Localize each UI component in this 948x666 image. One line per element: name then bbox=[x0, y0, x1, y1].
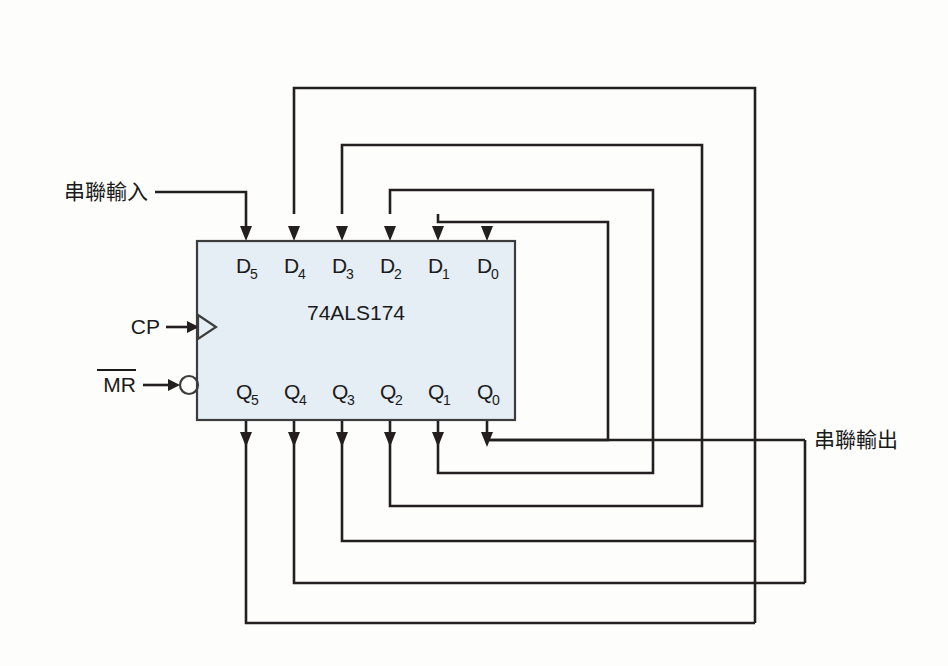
q-pin-label-0: Q bbox=[236, 380, 252, 403]
q-pin-sub-2: 3 bbox=[347, 392, 355, 408]
d-pin-label-3: D bbox=[380, 254, 395, 277]
d-pin-sub-3: 2 bbox=[394, 266, 402, 282]
circuit-diagram: 串聯輸入 串聯輸出 74ALS174 CP MR D 5 D bbox=[0, 0, 948, 666]
d-pin-sub-4: 1 bbox=[442, 266, 450, 282]
d-pin-label-0: D bbox=[236, 254, 251, 277]
feedback-wire-q4-outer bbox=[294, 420, 805, 583]
d-pin-sub-1: 4 bbox=[298, 266, 306, 282]
serial-input-wire bbox=[155, 192, 246, 226]
cp-pin-label: CP bbox=[131, 315, 160, 338]
d-pin-label-4: D bbox=[428, 254, 443, 277]
q-pin-sub-0: 5 bbox=[251, 392, 259, 408]
q-pin-sub-4: 1 bbox=[443, 392, 451, 408]
serial-input-label: 串聯輸入 bbox=[64, 180, 148, 204]
serial-output-label: 串聯輸出 bbox=[814, 428, 898, 452]
chip-name-label: 74ALS174 bbox=[307, 301, 405, 324]
d-pin-sub-0: 5 bbox=[250, 266, 258, 282]
d-pin-label-1: D bbox=[284, 254, 299, 277]
d-pin-label-2: D bbox=[332, 254, 347, 277]
q-pin-arrowheads bbox=[240, 432, 493, 447]
mr-pin-label: MR bbox=[103, 373, 136, 396]
q-pin-label-5: Q bbox=[477, 380, 493, 403]
d-pin-sub-5: 0 bbox=[491, 266, 499, 282]
circuit-svg: 串聯輸入 串聯輸出 74ALS174 CP MR D 5 D bbox=[0, 0, 948, 666]
d-pin-label-5: D bbox=[477, 254, 492, 277]
mr-pin-group bbox=[143, 376, 198, 394]
d-pin-sub-2: 3 bbox=[346, 266, 354, 282]
d-pin-arrowheads bbox=[240, 226, 493, 241]
inverting-bubble-icon bbox=[180, 376, 198, 394]
q-pin-label-1: Q bbox=[284, 380, 300, 403]
q-pin-label-3: Q bbox=[380, 380, 396, 403]
q-pin-sub-5: 0 bbox=[492, 392, 500, 408]
q-pin-sub-3: 2 bbox=[395, 392, 403, 408]
feedback-wire-q5-outer bbox=[246, 420, 755, 623]
q-pin-label-2: Q bbox=[332, 380, 348, 403]
q-pin-sub-1: 4 bbox=[299, 392, 307, 408]
q-pin-label-4: Q bbox=[428, 380, 444, 403]
